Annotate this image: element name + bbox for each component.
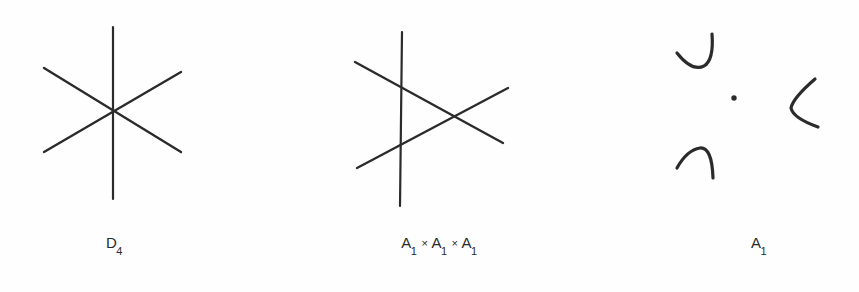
a1a1a1-vertical-line — [400, 32, 402, 206]
figure-caption-a1a1a1: A1×A1×A1 — [290, 234, 590, 254]
a1a1a1-diagonal-line-up — [357, 88, 508, 168]
a1-center-dot — [731, 95, 736, 100]
figure-panel-a1a1a1: A1×A1×A1 — [290, 0, 590, 292]
a1-arc-lower-left-icon — [677, 148, 713, 178]
caption-a1a1a1-separator-1: × — [418, 237, 431, 249]
caption-a1a1a1-separator-2: × — [449, 237, 462, 249]
caption-a1-subscript: 1 — [760, 245, 767, 257]
caption-d4-subscript: 4 — [116, 245, 123, 257]
figure-panel-d4: D4 — [0, 0, 290, 292]
figure-panel-a1: A1 — [590, 0, 859, 292]
drawing-d4-three-concurrent-lines — [0, 0, 290, 230]
caption-a1a1a1-sub-2: 1 — [441, 245, 448, 257]
a1-arc-right-icon — [791, 79, 818, 127]
caption-a1a1a1-sub-1: 1 — [411, 245, 418, 257]
drawing-a1-arcs-and-dot — [590, 0, 859, 230]
drawing-a1a1a1-three-lines-triangle — [290, 0, 590, 230]
figure-caption-d4: D4 — [0, 234, 260, 254]
caption-a1a1a1-sub-3: 1 — [471, 245, 478, 257]
figure-caption-a1: A1 — [625, 234, 859, 254]
figure-sheet: D4 A1×A1×A1 A1 — [0, 0, 859, 292]
a1-arc-upper-left-icon — [677, 34, 712, 67]
